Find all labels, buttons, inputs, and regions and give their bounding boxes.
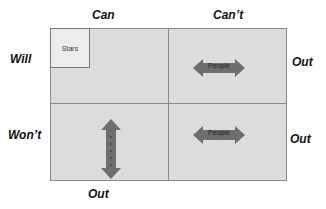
people-label: People [193, 62, 245, 69]
out-label-top-right: Out [292, 55, 313, 69]
column-label-cant: Can’t [213, 8, 243, 22]
people-arrow-bottom-right: People [193, 126, 245, 144]
people-arrow-top-right: People [193, 59, 245, 77]
stars-box: Stars [50, 28, 90, 68]
out-label-bottom-right: Out [290, 132, 311, 146]
row-label-will: Will [10, 52, 31, 66]
stars-label: Stars [62, 45, 78, 52]
quadrant-grid: Stars People People [50, 28, 287, 181]
vertical-divider [168, 29, 169, 180]
people-arrow-bottom-left [101, 119, 121, 179]
double-arrow-vertical-icon [101, 119, 121, 179]
horizontal-divider [51, 103, 286, 104]
people-label: People [193, 129, 245, 136]
out-label-bottom: Out [88, 187, 109, 201]
column-label-can: Can [92, 8, 115, 22]
row-label-wont: Won’t [8, 128, 41, 142]
